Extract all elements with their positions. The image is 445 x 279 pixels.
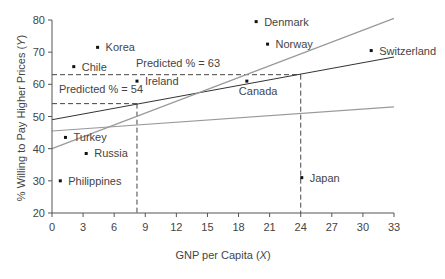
x-tick-label: 24 [295, 221, 307, 233]
x-tick-label: 3 [80, 221, 86, 233]
point-label: Korea [106, 41, 136, 53]
x-tick-label: 15 [201, 221, 213, 233]
point-marker [96, 46, 99, 49]
point-label: Chile [82, 61, 107, 73]
point-label: Switzerland [379, 45, 436, 57]
point-label: Russia [94, 147, 129, 159]
y-tick-label: 70 [33, 46, 45, 58]
point-marker [59, 179, 62, 182]
point-marker [266, 43, 269, 46]
axes: 2030405060708003691215182124273033 [33, 14, 400, 233]
x-tick-label: 12 [170, 221, 182, 233]
point-label: Philippines [68, 175, 122, 187]
x-tick-label: 21 [264, 221, 276, 233]
point-label: Japan [310, 172, 340, 184]
data-point-japan: Japan [300, 172, 339, 184]
point-label: Canada [239, 85, 278, 97]
point-marker [245, 80, 248, 83]
data-point-norway: Norway [266, 38, 313, 50]
x-tick-label: 27 [326, 221, 338, 233]
data-point-korea: Korea [96, 41, 136, 53]
point-marker [300, 176, 303, 179]
point-marker [85, 152, 88, 155]
data-point-denmark: Denmark [255, 16, 310, 28]
x-tick-label: 6 [111, 221, 117, 233]
y-tick-label: 80 [33, 14, 45, 26]
x-tick-label: 9 [142, 221, 148, 233]
x-tick-label: 18 [232, 221, 244, 233]
point-marker [370, 49, 373, 52]
x-tick-label: 0 [49, 221, 55, 233]
x-tick-label: 30 [357, 221, 369, 233]
point-marker [72, 65, 75, 68]
scatter-chart: 2030405060708003691215182124273033 Korea… [0, 0, 445, 279]
y-tick-label: 30 [33, 175, 45, 187]
y-axis-label: % Willing to Pay Higher Prices (Y) [15, 35, 27, 201]
x-axis-label: GNP per Capita (X) [175, 249, 270, 261]
data-points: KoreaChileIrelandTurkeyRussiaPhilippines… [59, 16, 436, 187]
y-tick-label: 50 [33, 111, 45, 123]
x-tick-label: 33 [388, 221, 400, 233]
data-point-philippines: Philippines [59, 175, 122, 187]
point-marker [64, 136, 67, 139]
point-label: Ireland [145, 75, 179, 87]
point-label: Turkey [73, 131, 107, 143]
y-tick-label: 20 [33, 207, 45, 219]
annotation-predicted-54: Predicted % = 54 [59, 83, 143, 95]
y-tick-label: 60 [33, 78, 45, 90]
data-point-russia: Russia [85, 147, 129, 159]
point-marker [255, 20, 258, 23]
point-label: Norway [276, 38, 314, 50]
data-point-chile: Chile [72, 61, 107, 73]
data-point-switzerland: Switzerland [370, 45, 436, 57]
annotation-predicted-63: Predicted % = 63 [136, 57, 220, 69]
point-label: Denmark [264, 16, 309, 28]
y-tick-label: 40 [33, 143, 45, 155]
